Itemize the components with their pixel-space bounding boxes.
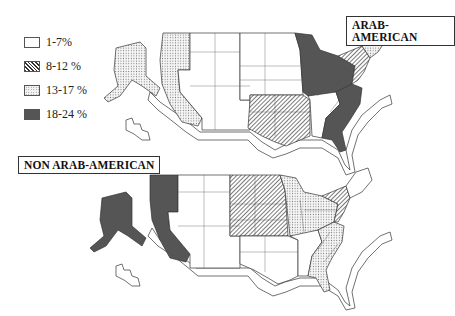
region-hawaii: [116, 264, 140, 286]
region-alaska: [90, 192, 146, 252]
map-title-non-arab-american: NON ARAB-AMERICAN: [18, 156, 160, 174]
region-plains-north: [230, 175, 288, 236]
region-hawaii: [126, 118, 150, 140]
map-arab-american: [104, 26, 392, 175]
region-alaska: [104, 42, 160, 102]
region-plains-north: [240, 33, 303, 100]
map-non-arab-american: [90, 168, 392, 310]
map-title-arab-american: ARAB-AMERICAN: [346, 16, 455, 46]
